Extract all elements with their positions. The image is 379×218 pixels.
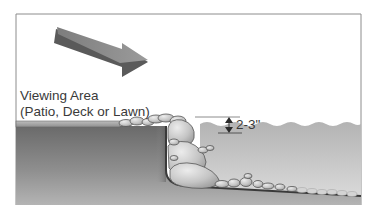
depth-dimension-label: 2-3": [236, 117, 260, 133]
viewing-area-surface: [16, 121, 120, 127]
viewing-area-sublabel: (Patio, Deck or Lawn): [20, 104, 150, 120]
viewing-area-label: Viewing Area: [20, 88, 99, 104]
flow-arrow-icon: [54, 27, 148, 77]
